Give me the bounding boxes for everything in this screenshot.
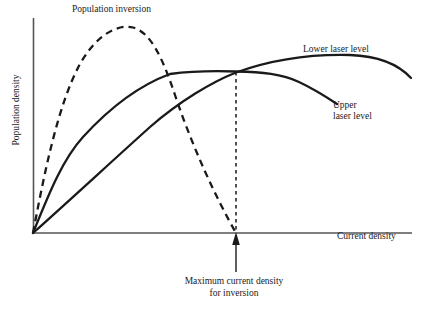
annotation-max-current-density-line1: Maximum current density: [148, 276, 320, 288]
curve-upper-laser-level: [33, 71, 337, 233]
chart-canvas: [0, 0, 435, 309]
population-density-chart: Population density Current density Popul…: [0, 0, 435, 309]
annotation-max-current-density-line2: for inversion: [148, 288, 320, 300]
annotation-upper-laser-level-line1: Upper: [333, 100, 372, 111]
annotation-max-current-density: Maximum current density for inversion: [148, 276, 320, 299]
x-axis-label: Current density: [337, 231, 396, 242]
annotation-population-inversion: Population inversion: [72, 4, 151, 15]
annotation-upper-laser-level: Upper laser level: [333, 100, 372, 122]
y-axis-label: Population density: [11, 55, 21, 165]
curve-population-inversion: [33, 27, 236, 233]
annotation-lower-laser-level: Lower laser level: [303, 44, 369, 55]
annotation-upper-laser-level-line2: laser level: [333, 111, 372, 122]
caption-arrow-head: [232, 232, 240, 245]
